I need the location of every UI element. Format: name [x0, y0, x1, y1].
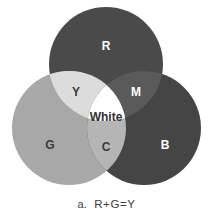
label-green: G	[45, 138, 54, 152]
label-yellow: Y	[72, 85, 80, 99]
venn-figure: R G B Y M C White a. R+G=Y	[0, 0, 213, 216]
label-magenta: M	[131, 85, 141, 99]
figure-caption: a. R+G=Y	[0, 192, 213, 216]
label-cyan: C	[102, 140, 111, 154]
caption-text: R+G=Y	[94, 198, 135, 210]
label-red: R	[102, 39, 111, 53]
label-white: White	[90, 110, 123, 124]
label-blue: B	[161, 138, 170, 152]
venn-svg: R G B Y M C White	[0, 0, 213, 192]
caption-marker: a.	[77, 198, 87, 210]
venn-diagram: R G B Y M C White	[0, 0, 213, 192]
